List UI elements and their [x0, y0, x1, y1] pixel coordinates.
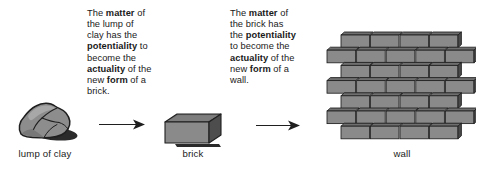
wall-course	[341, 32, 461, 48]
emphasis-term: potentiality	[246, 30, 296, 40]
wall-course	[341, 93, 461, 109]
brick-wall-icon	[326, 29, 476, 145]
emphasis-term: potentiality	[87, 41, 137, 51]
potentiality-actuality-diagram: The matter ofthe lump ofclay has thepote…	[0, 0, 485, 170]
annotation-text: of the	[125, 64, 151, 74]
wall-brick	[371, 123, 403, 139]
wall-brick	[371, 93, 403, 109]
wall-brick	[357, 47, 389, 63]
wall-brick	[341, 93, 373, 109]
annotation-line: actuality of the	[87, 64, 171, 75]
annotation-text: the brick has	[230, 19, 283, 29]
wall-brick	[445, 47, 476, 63]
wall-course	[341, 123, 461, 139]
wall-brick	[341, 123, 373, 139]
annotation-text: to become the	[230, 41, 290, 51]
annotation-text: of	[135, 8, 146, 18]
annotation-line: become the	[87, 53, 171, 64]
annotation-text: of the	[268, 53, 294, 63]
emphasis-term: form	[107, 75, 128, 85]
wall-brick	[386, 78, 418, 94]
rock-lump-icon	[14, 96, 86, 148]
annotation-line: The matter of	[230, 8, 322, 19]
emphasis-term: actuality	[87, 64, 125, 74]
wall-brick	[445, 78, 476, 94]
wall-brick	[416, 78, 448, 94]
arrow-clay-to-brick	[99, 116, 147, 136]
wall-brick	[416, 108, 448, 124]
annotation-line: brick.	[87, 86, 171, 97]
emphasis-term: matter	[249, 8, 278, 18]
annotation-line: wall.	[230, 75, 322, 86]
annotation-line: the brick has	[230, 19, 322, 30]
wall-brick	[430, 123, 462, 139]
annotation-text: new	[230, 64, 250, 74]
annotation-text: the lump of	[87, 19, 134, 29]
wall-brick	[445, 108, 476, 124]
single-brick-icon	[163, 113, 225, 153]
wall-brick	[400, 62, 432, 78]
label-brick: brick	[160, 148, 226, 159]
wall-brick	[341, 62, 373, 78]
annotation-line: The matter of	[87, 8, 171, 19]
wall-brick	[430, 32, 462, 48]
annotation-text: The	[230, 8, 249, 18]
annotation-text: new	[87, 75, 107, 85]
annotation-line: to become the	[230, 41, 322, 52]
wall-brick	[357, 108, 389, 124]
annotation-text: clay has the	[87, 30, 137, 40]
annotation-text: the	[230, 30, 246, 40]
wall-brick	[386, 108, 418, 124]
emphasis-term: matter	[106, 8, 135, 18]
wall-brick	[327, 108, 359, 124]
annotation-line: new form of a	[230, 64, 322, 75]
label-wall: wall	[370, 148, 434, 159]
label-lump-of-clay: lump of clay	[0, 148, 90, 159]
wall-brick	[430, 62, 462, 78]
annotation-text: The	[87, 8, 106, 18]
annotation-clay-to-brick: The matter ofthe lump ofclay has thepote…	[87, 8, 171, 97]
annotation-text: wall.	[230, 75, 249, 85]
wall-brick	[430, 93, 462, 109]
wall-brick	[371, 32, 403, 48]
annotation-line: clay has the	[87, 30, 171, 41]
annotation-line: the potentiality	[230, 30, 322, 41]
annotation-text: become the	[87, 53, 136, 63]
emphasis-term: actuality	[230, 53, 268, 63]
wall-brick	[400, 32, 432, 48]
annotation-text: brick.	[87, 86, 110, 96]
arrow-brick-to-wall	[256, 117, 302, 137]
wall-brick	[371, 62, 403, 78]
annotation-text: to	[137, 41, 148, 51]
wall-brick	[400, 123, 432, 139]
wall-course	[327, 78, 476, 94]
wall-course	[327, 108, 476, 124]
annotation-text: of a	[128, 75, 146, 85]
annotation-text: of a	[271, 64, 289, 74]
wall-brick	[341, 32, 373, 48]
wall-course	[341, 62, 461, 78]
annotation-line: potentiality to	[87, 41, 171, 52]
wall-brick	[400, 93, 432, 109]
wall-brick	[327, 47, 359, 63]
wall-brick	[357, 78, 389, 94]
annotation-brick-to-wall: The matter ofthe brick hasthe potentiali…	[230, 8, 322, 86]
annotation-line: actuality of the	[230, 53, 322, 64]
wall-brick	[386, 47, 418, 63]
wall-course	[327, 47, 476, 63]
annotation-line: new form of a	[87, 75, 171, 86]
wall-brick	[327, 78, 359, 94]
annotation-text: of	[278, 8, 289, 18]
wall-brick	[416, 47, 448, 63]
annotation-line: the lump of	[87, 19, 171, 30]
emphasis-term: form	[250, 64, 271, 74]
